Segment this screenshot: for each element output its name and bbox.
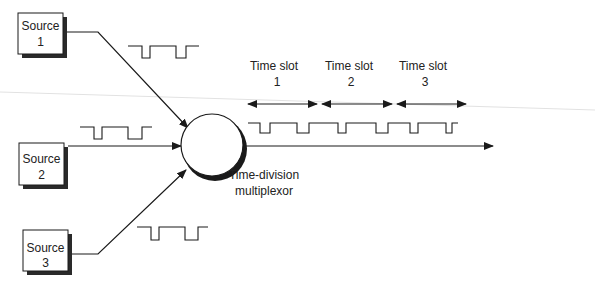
source-3-connector-arrow — [72, 170, 186, 254]
source-2-box: Source 2 — [19, 143, 68, 189]
source-2-label-line1: Source — [22, 152, 60, 166]
source-1-waveform — [128, 46, 199, 58]
source-2-waveform — [80, 127, 152, 139]
source-3-box: Source 3 — [23, 230, 72, 275]
time-slot-2-label-line2: 2 — [348, 75, 355, 89]
scan-artifact-line — [0, 92, 595, 110]
tdm-diagram: Source 1 Source 2 Source 3 Time-division… — [0, 0, 595, 293]
multiplexor-label-line2: multiplexor — [235, 184, 293, 198]
time-slot-3-label-line1: Time slot — [399, 59, 448, 73]
time-slot-1-label-line1: Time slot — [250, 59, 299, 73]
output-waveform — [248, 123, 458, 133]
source-1-label-line2: 1 — [37, 35, 44, 49]
time-slot-3-label-line2: 3 — [422, 75, 429, 89]
source-1-box: Source 1 — [18, 13, 67, 58]
multiplexor-label-line1: Time-division — [229, 168, 299, 182]
source-3-waveform — [137, 227, 208, 240]
time-slot-2-label-line1: Time slot — [325, 59, 374, 73]
time-slot-1-label-line2: 1 — [274, 75, 281, 89]
source-2-label-line2: 2 — [38, 168, 45, 182]
source-3-label-line1: Source — [26, 241, 64, 255]
source-1-label-line1: Source — [21, 19, 59, 33]
source-3-label-line2: 3 — [42, 256, 49, 270]
